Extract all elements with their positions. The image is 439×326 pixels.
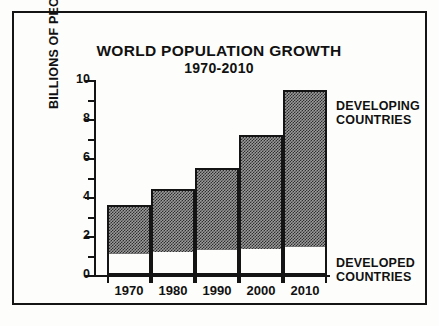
y-tick-label: 10 — [76, 72, 90, 86]
x-tick-mark — [151, 275, 153, 283]
bar-segment-developed — [285, 247, 325, 273]
x-axis-label-1990: 1990 — [195, 283, 239, 298]
y-tick-label: 4 — [83, 189, 90, 203]
y-tick-mark-minor — [88, 178, 95, 180]
y-tick-label: 2 — [83, 228, 90, 242]
legend-developed-line2: COUNTRIES — [336, 270, 415, 284]
bar-1980[interactable] — [151, 189, 195, 275]
legend-label-developed-countries: DEVELOPED COUNTRIES — [336, 256, 415, 284]
bar-segment-developed — [197, 250, 237, 273]
x-tick-mark — [107, 275, 109, 283]
bar-segment-developing — [153, 191, 193, 255]
bar-segment-developing — [109, 207, 149, 258]
legend-developing-line2: COUNTRIES — [336, 113, 420, 127]
chart-border-frame: WORLD POPULATION GROWTH 1970-2010 BILLIO… — [12, 11, 427, 305]
bar-segment-developing — [241, 137, 281, 253]
y-tick-label: 0 — [83, 267, 90, 281]
y-tick-label: 6 — [83, 150, 90, 164]
x-axis-label-1980: 1980 — [151, 283, 195, 298]
bar-1990[interactable] — [195, 168, 239, 275]
x-axis-line — [94, 275, 330, 277]
bar-segment-developed — [241, 249, 281, 273]
bar-2010[interactable] — [283, 90, 327, 275]
y-tick-mark-minor — [88, 139, 95, 141]
chart-title-block: WORLD POPULATION GROWTH 1970-2010 — [74, 43, 364, 76]
chart-title: WORLD POPULATION GROWTH — [74, 43, 364, 59]
chart-figure: WORLD POPULATION GROWTH 1970-2010 BILLIO… — [0, 0, 439, 326]
x-axis-label-1970: 1970 — [107, 283, 151, 298]
chart-subtitle: 1970-2010 — [74, 60, 364, 76]
bar-segment-developed — [109, 254, 149, 274]
legend-label-developing-countries: DEVELOPING COUNTRIES — [336, 99, 420, 127]
x-axis-label-2000: 2000 — [239, 283, 283, 298]
legend-developing-line1: DEVELOPING — [336, 99, 420, 113]
plot-area: 10 8 6 4 — [94, 80, 326, 275]
x-axis-label-2010: 2010 — [283, 283, 327, 298]
x-tick-mark — [239, 275, 241, 283]
y-tick-mark-minor — [88, 217, 95, 219]
y-axis-title: BILLIONS OF PEOPLE — [47, 0, 61, 109]
y-tick-mark-minor — [88, 256, 95, 258]
x-tick-mark — [325, 275, 327, 283]
bar-segment-developing — [197, 170, 237, 254]
x-tick-mark — [195, 275, 197, 283]
bar-2000[interactable] — [239, 135, 283, 275]
bar-segment-developing — [285, 92, 325, 251]
bar-segment-developed — [153, 252, 193, 273]
y-tick-mark-minor — [88, 100, 95, 102]
bar-1970[interactable] — [107, 205, 151, 275]
legend-developed-line1: DEVELOPED — [336, 256, 415, 270]
y-tick-label: 8 — [83, 111, 90, 125]
x-tick-mark — [283, 275, 285, 283]
